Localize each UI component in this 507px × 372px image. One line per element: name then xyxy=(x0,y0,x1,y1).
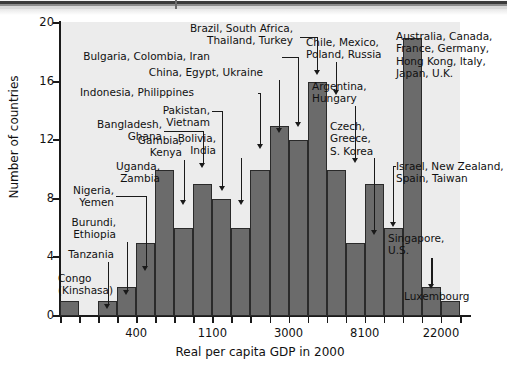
histogram-bar xyxy=(155,170,174,317)
x-tick-mark xyxy=(422,317,424,323)
x-tick-mark xyxy=(155,317,157,323)
annotation-label: Chile, Mexico, Poland, Russia xyxy=(306,36,406,61)
annotation-label: Indonesia, Philippines xyxy=(62,86,194,98)
x-tick-mark xyxy=(98,317,100,323)
annotation-arrowhead xyxy=(104,304,110,309)
annotation-arrowhead xyxy=(238,200,244,205)
y-tick-label: 4 xyxy=(30,251,54,263)
scan-haze xyxy=(0,9,507,15)
histogram-bar xyxy=(308,82,327,316)
x-tick-label: 22000 xyxy=(411,327,471,339)
x-tick-mark xyxy=(212,317,214,323)
x-tick-mark xyxy=(250,317,252,323)
histogram-bar xyxy=(212,199,231,316)
x-tick-mark xyxy=(308,317,310,323)
x-tick-label: 3000 xyxy=(259,327,319,339)
y-tick-label: 0 xyxy=(30,310,54,322)
x-tick-mark xyxy=(365,317,367,323)
histogram-bar xyxy=(193,184,212,316)
annotation-label: Czech, Greece, S. Korea xyxy=(330,120,396,157)
annotation-arrowhead xyxy=(219,186,225,191)
x-tick-label: 400 xyxy=(106,327,166,339)
annotation-label: Argentina, Hungary xyxy=(312,80,390,105)
x-tick-mark xyxy=(270,317,272,323)
annotation-label: Luxembourg xyxy=(404,290,484,302)
leader-line xyxy=(222,111,223,186)
x-tick-mark xyxy=(441,317,443,323)
x-tick-mark xyxy=(384,317,386,323)
y-tick-label-wrap: 4 xyxy=(0,251,54,263)
histogram-bar xyxy=(250,170,269,317)
annotation-label: Pakistan, Vietnam xyxy=(120,104,210,129)
x-tick-label: 1100 xyxy=(182,327,242,339)
leader-line xyxy=(127,242,128,290)
annotation-label: Israel, New Zealand, Spain, Taiwan xyxy=(396,160,504,185)
y-tick-label: 16 xyxy=(30,76,54,88)
annotation-arrowhead xyxy=(390,222,396,227)
annotation-arrowhead xyxy=(123,290,129,295)
x-tick-mark xyxy=(231,317,233,323)
histogram-bar xyxy=(231,228,250,316)
annotation-label: Congo (Kinshasa) xyxy=(58,272,114,297)
leader-line xyxy=(298,57,299,122)
annotation-label: Tanzania xyxy=(52,248,114,260)
leader-line xyxy=(241,158,242,200)
leader-line xyxy=(108,262,109,304)
y-tick-label-wrap: 20 xyxy=(0,17,54,29)
annotation-label: Singapore, U.S. xyxy=(388,232,452,257)
x-tick-label: 8100 xyxy=(335,327,395,339)
scan-edge-artifact xyxy=(0,0,507,9)
histogram-bar xyxy=(289,140,308,316)
annotation-arrowhead xyxy=(352,158,358,163)
x-tick-mark xyxy=(460,317,462,323)
x-tick-mark xyxy=(193,317,195,323)
x-tick-mark xyxy=(60,317,62,323)
leader-line xyxy=(184,160,185,200)
x-tick-mark xyxy=(117,317,119,323)
histogram-bar xyxy=(441,301,460,316)
scan-edge-notch xyxy=(175,0,177,9)
annotation-label: China, Egypt, Ukraine xyxy=(128,66,263,78)
histogram-bar xyxy=(60,301,79,316)
annotation-arrowhead xyxy=(257,144,263,149)
leader-line xyxy=(431,258,432,284)
x-tick-mark xyxy=(79,317,81,323)
annotation-label: Brazil, South Africa, Thailand, Turkey xyxy=(148,22,293,47)
histogram-bar xyxy=(174,228,193,316)
x-tick-mark xyxy=(289,317,291,323)
leader-line xyxy=(116,196,146,197)
y-tick-label-wrap: 0 xyxy=(0,310,54,322)
annotation-arrowhead xyxy=(428,284,434,289)
annotation-label: Burundi, Ethiopia xyxy=(44,216,116,241)
annotation-arrowhead xyxy=(314,70,320,75)
x-tick-mark xyxy=(403,317,405,323)
x-tick-mark xyxy=(136,317,138,323)
annotation-arrowhead xyxy=(276,128,282,133)
annotation-label: Bolivia, India xyxy=(166,132,216,157)
annotation-label: Uganda, Zambia xyxy=(82,160,160,185)
annotation-label: Australia, Canada, France, Germany, Hong… xyxy=(396,30,506,79)
leader-line xyxy=(260,93,261,144)
leader-line xyxy=(212,111,222,112)
y-axis-title: Number of countries xyxy=(7,37,21,237)
annotation-arrowhead xyxy=(295,122,301,127)
histogram-bar xyxy=(327,170,346,317)
x-tick-mark xyxy=(346,317,348,323)
x-tick-mark xyxy=(327,317,329,323)
leader-line xyxy=(374,158,375,230)
annotation-label: Nigeria, Yemen xyxy=(42,184,114,209)
annotation-arrowhead xyxy=(142,266,148,271)
annotation-label: Bulgaria, Colombia, Iran xyxy=(70,50,210,62)
annotation-arrowhead xyxy=(199,163,205,168)
y-tick-label: 20 xyxy=(30,17,54,29)
x-tick-mark xyxy=(174,317,176,323)
x-axis-title: Real per capita GDP in 2000 xyxy=(60,345,460,359)
annotation-arrowhead xyxy=(180,200,186,205)
leader-line xyxy=(146,196,147,266)
leader-line xyxy=(393,166,394,222)
y-tick-label: 12 xyxy=(30,134,54,146)
leader-line xyxy=(279,80,280,128)
annotation-arrowhead xyxy=(371,230,377,235)
histogram-bar xyxy=(270,126,289,316)
figure-page: 048121620 40011003000810022000 Congo (Ki… xyxy=(0,0,507,372)
